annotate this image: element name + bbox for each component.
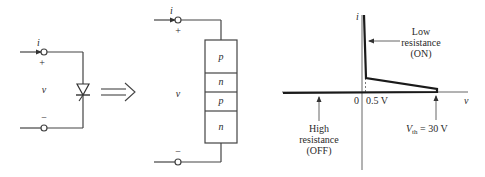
layer-n1: n <box>219 76 224 87</box>
middle-circuit: p n p n i + v − <box>154 5 237 165</box>
threshold-label-value: = 30 V <box>418 123 449 134</box>
minus-label: − <box>175 146 181 157</box>
plus-label: + <box>175 25 181 36</box>
layer-n2: n <box>219 121 224 132</box>
on-annotation-line2: resistance <box>401 37 441 48</box>
current-label: i <box>170 5 173 16</box>
voltage-label: v <box>42 84 47 95</box>
i-axis-label: i <box>356 11 359 22</box>
minus-label: − <box>41 112 47 123</box>
current-label: i <box>37 37 40 48</box>
threshold-label: Vth = 30 V <box>406 123 449 136</box>
off-annotation-line2: resistance <box>299 134 339 145</box>
iv-graph: i v 0 0.5 V Low resistance (ON) High res… <box>282 11 469 170</box>
pnpn-stack: p n p n <box>205 40 237 143</box>
terminal-top <box>175 17 181 23</box>
terminal-bottom <box>175 159 181 165</box>
origin-label: 0 <box>354 95 359 106</box>
voltage-label: v <box>176 88 181 99</box>
left-circuit: i + v − <box>20 37 90 131</box>
off-annotation-line1: High <box>309 123 329 134</box>
layer-p1: p <box>218 51 224 62</box>
on-annotation-line3: (ON) <box>410 48 431 60</box>
terminal-top <box>41 49 47 55</box>
on-annotation-line1: Low <box>412 26 431 37</box>
on-voltage-label: 0.5 V <box>366 95 389 106</box>
double-arrow-right-icon <box>101 83 135 101</box>
terminal-bottom <box>41 125 47 131</box>
off-annotation-line3: (OFF) <box>306 145 331 157</box>
layer-p2: p <box>218 95 224 106</box>
v-axis-label: v <box>464 95 469 106</box>
thyristor-figure: i + v − p n p n i + v − <box>0 0 485 177</box>
plus-label: + <box>39 57 45 68</box>
